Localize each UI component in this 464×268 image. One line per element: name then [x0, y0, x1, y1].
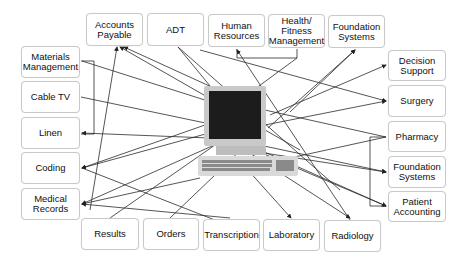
node-label: Decision Support [399, 56, 435, 76]
node-label: Accounts Payable [95, 20, 134, 40]
node-pharmacy: Pharmacy [388, 121, 446, 152]
node-label: ADT [166, 25, 185, 35]
node-label: Pharmacy [396, 132, 439, 142]
node-health-fitness-management: Health/ Fitness Management [268, 14, 325, 48]
node-transcription: Transcription [203, 219, 260, 251]
node-decision-support: Decision Support [388, 50, 446, 81]
node-results: Results [81, 218, 139, 250]
node-radiology: Radiology [324, 220, 381, 252]
node-label: Coding [35, 163, 65, 173]
node-label: Health/ Fitness Management [269, 16, 324, 46]
node-surgery: Surgery [388, 85, 446, 117]
node-patient-accounting: Patient Accounting [388, 191, 446, 222]
node-label: Radiology [331, 231, 373, 241]
node-label: Materials Management [23, 52, 78, 72]
node-label: Laboratory [269, 230, 314, 240]
node-label: Medical Records [33, 194, 68, 214]
node-materials-management: Materials Management [21, 46, 80, 78]
node-label: Surgery [400, 96, 433, 106]
node-foundation-systems-right: Foundation Systems [388, 156, 446, 188]
node-human-resources: Human Resources [208, 14, 265, 47]
node-label: Linen [39, 128, 62, 138]
node-accounts-payable: Accounts Payable [86, 13, 143, 46]
computer-icon [196, 84, 306, 179]
node-adt: ADT [147, 13, 204, 46]
node-label: Transcription [204, 230, 259, 240]
node-label: Foundation Systems [393, 162, 441, 182]
node-laboratory: Laboratory [263, 219, 320, 251]
node-cable-tv: Cable TV [21, 81, 80, 113]
node-orders: Orders [143, 218, 199, 250]
node-label: Results [94, 229, 126, 239]
node-coding: Coding [21, 152, 80, 184]
node-label: Patient Accounting [393, 197, 440, 217]
node-foundation-systems-top: Foundation Systems [328, 15, 385, 48]
node-label: Cable TV [31, 92, 70, 102]
node-medical-records: Medical Records [21, 188, 80, 220]
node-label: Foundation Systems [333, 22, 381, 42]
node-label: Orders [156, 229, 185, 239]
node-label: Human Resources [214, 21, 259, 41]
node-linen: Linen [21, 117, 80, 149]
